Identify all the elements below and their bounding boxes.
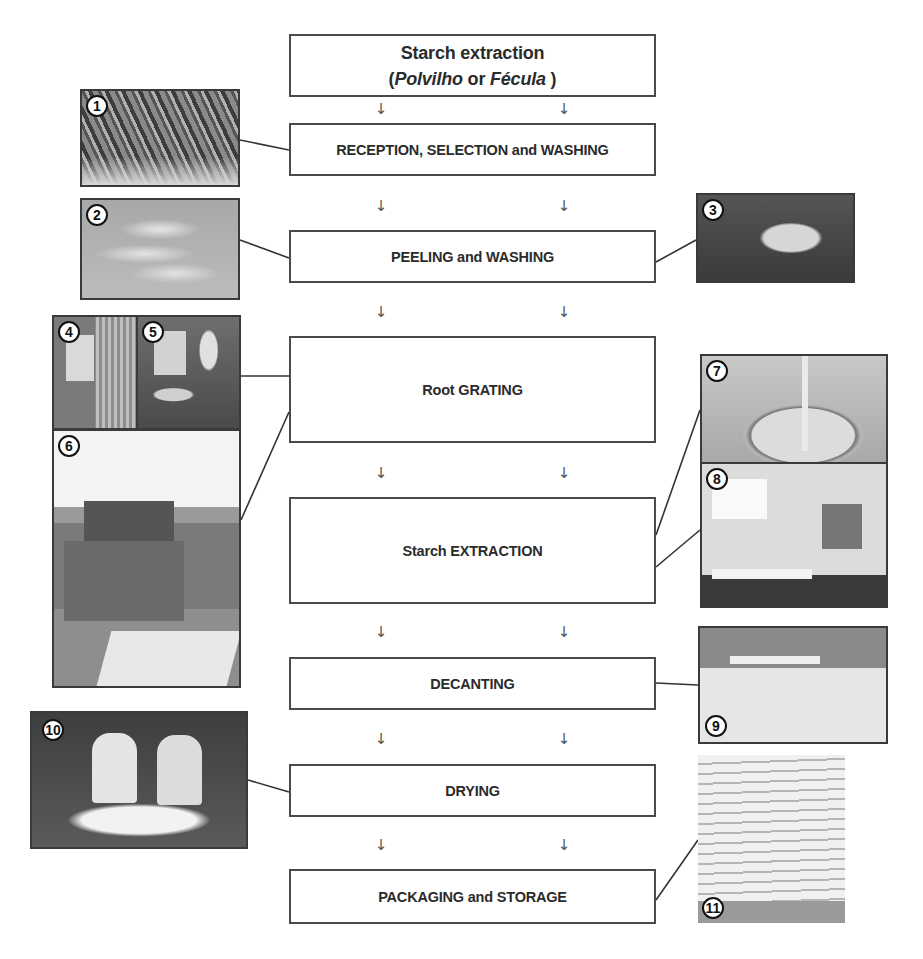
photo-number-badge: 5 xyxy=(142,321,164,343)
photo-extraction-equipment: 8 xyxy=(700,462,888,608)
step-label: Root GRATING xyxy=(422,382,522,398)
arrow-down-icon: ↓ xyxy=(374,837,388,853)
paren-close: ) xyxy=(546,69,557,89)
photo-drying: 10 xyxy=(30,711,248,849)
photo-number-badge: 4 xyxy=(58,321,80,343)
title-box: Starch extraction (Polvilho or Fécula ) xyxy=(289,34,656,97)
step-grating: Root GRATING xyxy=(289,336,656,443)
title-line1: Starch extraction xyxy=(401,40,545,66)
photo-peeled-crate: 2 xyxy=(80,198,240,300)
step-label: PACKAGING and STORAGE xyxy=(378,889,567,905)
arrow-down-icon: ↓ xyxy=(557,198,571,214)
title-line2: (Polvilho or Fécula ) xyxy=(389,66,557,92)
step-label: Starch EXTRACTION xyxy=(402,543,542,559)
arrow-down-icon: ↓ xyxy=(557,465,571,481)
photo-number-badge: 1 xyxy=(86,95,108,117)
photo-roots: 1 xyxy=(80,89,240,187)
arrow-down-icon: ↓ xyxy=(374,624,388,640)
photo-number-badge: 3 xyxy=(702,199,724,221)
photo-decanting-tank: 9 xyxy=(698,626,888,744)
step-label: PEELING and WASHING xyxy=(391,249,554,265)
step-packaging: PACKAGING and STORAGE xyxy=(289,869,656,924)
step-drying: DRYING xyxy=(289,764,656,817)
step-decanting: DECANTING xyxy=(289,657,656,710)
step-label: DECANTING xyxy=(430,676,514,692)
or-text: or xyxy=(463,69,490,89)
photo-extraction-tank: 7 xyxy=(700,354,888,464)
arrow-down-icon: ↓ xyxy=(374,465,388,481)
step-reception: RECEPTION, SELECTION and WASHING xyxy=(289,123,656,176)
arrow-down-icon: ↓ xyxy=(557,624,571,640)
arrow-down-icon: ↓ xyxy=(374,101,388,117)
photo-number-badge: 10 xyxy=(42,719,64,741)
photo-peeled-basin: 3 xyxy=(696,193,855,283)
term-fecula: Fécula xyxy=(490,69,546,89)
arrow-down-icon: ↓ xyxy=(557,101,571,117)
term-polvilho: Polvilho xyxy=(394,69,462,89)
arrow-down-icon: ↓ xyxy=(557,837,571,853)
photo-number-badge: 9 xyxy=(705,715,727,737)
arrow-down-icon: ↓ xyxy=(374,731,388,747)
arrow-down-icon: ↓ xyxy=(557,304,571,320)
arrow-down-icon: ↓ xyxy=(374,304,388,320)
photo-number-badge: 2 xyxy=(86,204,108,226)
step-peeling: PEELING and WASHING xyxy=(289,230,656,283)
arrow-down-icon: ↓ xyxy=(374,198,388,214)
step-extraction: Starch EXTRACTION xyxy=(289,497,656,604)
arrow-down-icon: ↓ xyxy=(557,731,571,747)
photo-number-badge: 6 xyxy=(58,435,80,457)
step-label: RECEPTION, SELECTION and WASHING xyxy=(336,142,608,158)
step-label: DRYING xyxy=(445,783,500,799)
photo-number-badge: 11 xyxy=(702,897,724,919)
photo-number-badge: 8 xyxy=(706,468,728,490)
photo-grating-machine: 6 xyxy=(52,429,241,688)
photo-number-badge: 7 xyxy=(706,360,728,382)
photo-roots-into-grater: 5 xyxy=(136,315,241,430)
photo-packaging: 11 xyxy=(698,755,845,923)
photo-grater-drum: 4 xyxy=(52,315,138,430)
